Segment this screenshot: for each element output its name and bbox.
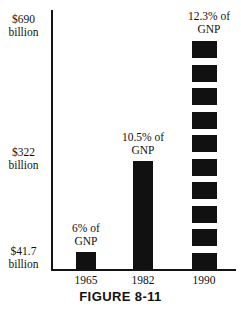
bar-segment bbox=[192, 112, 217, 129]
bar-callout-1965: 6% of GNP bbox=[56, 222, 116, 248]
bar-segment bbox=[192, 159, 217, 176]
figure-caption: FIGURE 8-11 bbox=[0, 289, 241, 304]
bar-segment bbox=[192, 253, 217, 270]
bar-callout-1990-gnp: GNP bbox=[178, 23, 240, 36]
x-axis-label-1982: 1982 bbox=[118, 274, 168, 287]
bar-segment bbox=[192, 229, 217, 246]
y-axis-label-690: $690 billion bbox=[0, 13, 47, 39]
bar-callout-1965-gnp: GNP bbox=[56, 235, 116, 248]
bar-1965 bbox=[76, 252, 96, 270]
y-axis-label-41-7-unit: billion bbox=[0, 258, 47, 271]
chart-plot-area: $690 billion $322 billion $41.7 billion bbox=[0, 0, 241, 285]
y-axis-label-322-amount: $322 bbox=[0, 146, 47, 159]
bar-callout-1990-percent: 12.3% of bbox=[178, 10, 240, 23]
bar-segment bbox=[192, 65, 217, 82]
y-axis-label-322-unit: billion bbox=[0, 159, 47, 172]
bar-callout-1990: 12.3% of GNP bbox=[178, 10, 240, 36]
bar-1982 bbox=[133, 161, 153, 270]
bar-segment bbox=[192, 135, 217, 152]
y-axis-label-41-7: $41.7 billion bbox=[0, 245, 47, 271]
bar-segment bbox=[192, 41, 217, 58]
bar-callout-1965-percent: 6% of bbox=[56, 222, 116, 235]
bar-callout-1982-percent: 10.5% of bbox=[108, 131, 178, 144]
y-axis-label-322: $322 billion bbox=[0, 146, 47, 172]
bar-segment bbox=[192, 88, 217, 105]
x-axis-label-1990: 1990 bbox=[179, 274, 229, 287]
y-axis-label-41-7-amount: $41.7 bbox=[0, 245, 47, 258]
bar-segment bbox=[192, 182, 217, 199]
bar-callout-1982-gnp: GNP bbox=[108, 144, 178, 157]
x-axis-label-1965: 1965 bbox=[61, 274, 111, 287]
y-axis-label-690-amount: $690 bbox=[0, 13, 47, 26]
bar-callout-1982: 10.5% of GNP bbox=[108, 131, 178, 157]
bar-segment bbox=[192, 206, 217, 223]
bar-1990 bbox=[192, 41, 217, 270]
y-axis-line bbox=[51, 10, 53, 271]
y-axis-label-690-unit: billion bbox=[0, 26, 47, 39]
figure-container: $690 billion $322 billion $41.7 billion bbox=[0, 0, 241, 312]
